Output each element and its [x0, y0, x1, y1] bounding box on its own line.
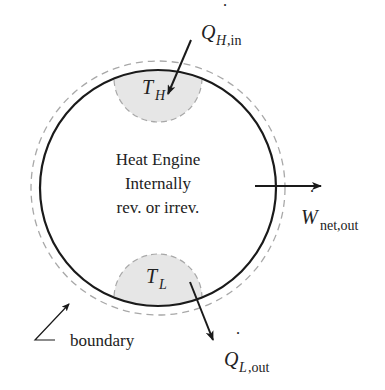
svg-text:˙: ˙ [235, 329, 241, 349]
heat-out-subscript-l: L [238, 360, 247, 375]
engine-subtitle: Internally [125, 174, 192, 193]
cold-reservoir [114, 254, 202, 342]
work-out-label: ˙ W net,out [301, 187, 359, 233]
svg-text:L: L [158, 277, 167, 292]
svg-text:Q: Q [201, 21, 216, 43]
svg-text:˙: ˙ [222, 1, 228, 21]
svg-text:,in: ,in [227, 33, 241, 48]
svg-text:˙: ˙ [309, 187, 315, 207]
svg-text:net,out: net,out [320, 218, 359, 233]
heat-in-label: ˙ Q H ,in [201, 1, 241, 48]
svg-text:,out: ,out [248, 360, 270, 375]
svg-text:Q: Q [224, 348, 239, 370]
boundary-label: boundary [70, 331, 135, 350]
svg-text:H: H [154, 88, 166, 103]
engine-description: Heat Engine Internally rev. or irrev. [116, 150, 201, 217]
boundary-leader-line [35, 304, 69, 340]
heat-out-arrow [190, 282, 213, 340]
engine-process-type: rev. or irrev. [117, 198, 200, 217]
svg-text:T: T [142, 76, 155, 98]
heat-in-subscript-h: H [215, 33, 227, 48]
svg-text:W: W [301, 206, 320, 228]
heat-engine-diagram: ˙ Q H ,in T H Heat Engine Internally rev… [0, 0, 385, 390]
svg-text:T: T [146, 265, 159, 287]
engine-title: Heat Engine [116, 150, 201, 169]
heat-out-label: ˙ Q L ,out [224, 329, 270, 375]
